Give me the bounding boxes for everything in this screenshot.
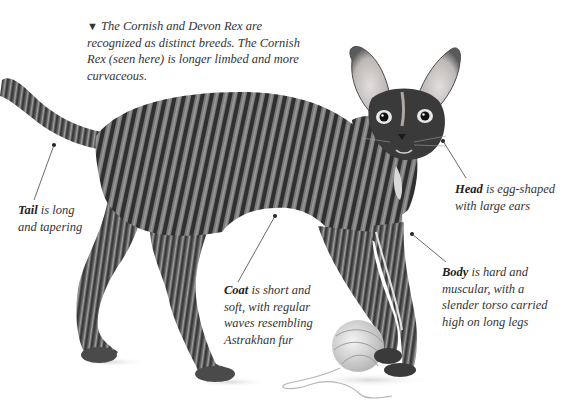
callout-text: and tapering xyxy=(18,219,82,236)
callout-text: is hard and xyxy=(468,265,528,279)
callout-text: with large ears xyxy=(455,198,555,215)
callout-text: Astrakhan fur xyxy=(224,332,313,349)
intro-caption: ▼ The Cornish and Devon Rex are recogniz… xyxy=(87,18,300,84)
callout-text: is egg-shaped xyxy=(483,182,555,196)
callout-body-pointer xyxy=(410,232,446,262)
intro-line-3: Rex (seen here) is longer limbed and mor… xyxy=(87,51,300,68)
callout-tail-pointer xyxy=(34,143,56,200)
callout-term: Head xyxy=(455,182,483,196)
callout-head: Head is egg-shaped with large ears xyxy=(455,181,555,214)
cat-tail xyxy=(0,78,112,150)
callout-text: waves resembling xyxy=(224,315,313,332)
callout-term: Body xyxy=(442,265,468,279)
callout-term: Tail xyxy=(18,203,38,217)
intro-line-1: The Cornish and Devon Rex are xyxy=(101,19,262,33)
callout-text: muscular, with a xyxy=(442,281,548,298)
callout-coat-pointer xyxy=(238,214,277,282)
callout-tail: Tail is long and tapering xyxy=(18,202,82,235)
callout-text: is short and xyxy=(248,283,310,297)
callout-text: slender torso carried xyxy=(442,297,548,314)
callout-text: high on long legs xyxy=(442,314,548,331)
callout-coat: Coat is short and soft, with regular wav… xyxy=(224,282,313,348)
cat-back-leg-right xyxy=(150,220,231,381)
intro-line-4: curvaceous. xyxy=(87,68,300,85)
callout-body: Body is hard and muscular, with a slende… xyxy=(442,264,548,330)
callout-term: Coat xyxy=(224,283,248,297)
callout-head-pointer xyxy=(441,139,466,178)
callout-text: soft, with regular xyxy=(224,299,313,316)
cat-back-paw xyxy=(195,366,235,382)
down-triangle-icon: ▼ xyxy=(87,20,98,32)
intro-line-2: recognized as distinct breeds. The Corni… xyxy=(87,35,300,52)
cat-front-paw xyxy=(374,348,402,364)
cat-back-paw xyxy=(81,347,117,363)
figure: ▼ The Cornish and Devon Rex are recogniz… xyxy=(0,0,571,412)
forehead-blaze xyxy=(402,92,404,126)
cat-front-paw xyxy=(384,363,416,377)
callout-text: is long xyxy=(38,203,75,217)
yarn-shadow xyxy=(310,373,430,387)
